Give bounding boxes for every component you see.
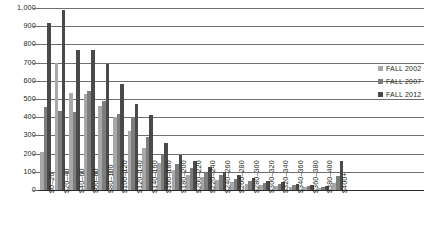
bar-group <box>97 8 112 190</box>
x-axis-tick-label: $60–80 <box>92 168 99 193</box>
x-axis-label-cell: $180–200 <box>170 191 185 248</box>
legend-item[interactable]: FALL 2002 <box>378 62 444 75</box>
x-axis-tick-label: $360–380 <box>312 160 319 193</box>
bar <box>62 10 66 190</box>
x-axis-tick-label: $400+ <box>341 172 348 193</box>
x-axis-tick-label: $0–20 <box>49 173 56 194</box>
x-axis-label-cell: $200–220 <box>184 191 199 248</box>
x-axis-tick-label: $240–260 <box>224 160 231 193</box>
x-axis-tick-label: $140–160 <box>151 160 158 193</box>
x-axis-tick-label: $100–120 <box>122 160 129 193</box>
x-axis-tick-label: $120–140 <box>136 160 143 193</box>
chart-legend: FALL 2002FALL 2007FALL 2012 <box>378 62 444 101</box>
plot-area: 01002003004005006007008009001,000 $0–20$… <box>0 0 444 248</box>
x-axis-tick-label: $340–360 <box>297 160 304 193</box>
legend-color-swatch <box>378 79 383 84</box>
x-axis-tick-label: $380–400 <box>326 160 333 193</box>
x-axis-label-cell: $400+ <box>331 191 346 248</box>
x-axis-tick-label: $160–180 <box>166 160 173 193</box>
x-axis-tick-label: $260–280 <box>239 160 246 193</box>
y-axis-labels: 01002003004005006007008009001,000 <box>0 8 36 190</box>
bar-group <box>67 8 82 190</box>
x-axis-label-cell: $340–360 <box>287 191 302 248</box>
x-axis-label-cell: $60–80 <box>82 191 97 248</box>
legend-label: FALL 2007 <box>386 78 421 85</box>
legend-item[interactable]: FALL 2007 <box>378 75 444 88</box>
x-axis-label-cell: $160–180 <box>155 191 170 248</box>
x-axis-label-cell: $40–60 <box>67 191 82 248</box>
legend-color-swatch <box>378 66 383 71</box>
x-axis-label-cell: $0–20 <box>38 191 53 248</box>
x-axis-label-cell: $80–100 <box>97 191 112 248</box>
x-axis-labels: $0–20$20–40$40–60$60–80$80–100$100–120$1… <box>38 191 345 248</box>
x-axis-label-cell: $220–240 <box>199 191 214 248</box>
x-axis-label-cell: $380–400 <box>316 191 331 248</box>
x-axis-tick-label: $80–100 <box>107 164 114 193</box>
x-axis-tick-label: $180–200 <box>180 160 187 193</box>
x-axis-tick-label: $280–300 <box>253 160 260 193</box>
bar <box>47 23 51 190</box>
x-axis-label-cell: $360–380 <box>301 191 316 248</box>
x-axis-tick-label: $20–40 <box>63 168 70 193</box>
x-axis-tick-label: $200–220 <box>195 160 202 193</box>
x-axis-tick-label: $220–240 <box>209 160 216 193</box>
x-axis-label-cell: $240–260 <box>214 191 229 248</box>
legend-item[interactable]: FALL 2012 <box>378 88 444 101</box>
bar-group <box>38 8 53 190</box>
x-axis-label-cell: $260–280 <box>228 191 243 248</box>
bar-group <box>82 8 97 190</box>
legend-label: FALL 2002 <box>386 65 421 72</box>
x-axis-tick-label: $320–340 <box>283 160 290 193</box>
x-axis-label-cell: $300–320 <box>257 191 272 248</box>
x-axis-label-cell: $140–160 <box>140 191 155 248</box>
x-axis-label-cell: $320–340 <box>272 191 287 248</box>
x-axis-label-cell: $280–300 <box>243 191 258 248</box>
x-axis-tick-label: $40–60 <box>78 168 85 193</box>
bar-group <box>53 8 68 190</box>
x-axis-label-cell: $20–40 <box>53 191 68 248</box>
bar-chart: 01002003004005006007008009001,000 $0–20$… <box>0 0 444 248</box>
x-axis-tick-label: $300–320 <box>268 160 275 193</box>
x-axis-label-cell: $120–140 <box>126 191 141 248</box>
legend-label: FALL 2012 <box>386 91 421 98</box>
legend-color-swatch <box>378 92 383 97</box>
x-axis-label-cell: $100–120 <box>111 191 126 248</box>
